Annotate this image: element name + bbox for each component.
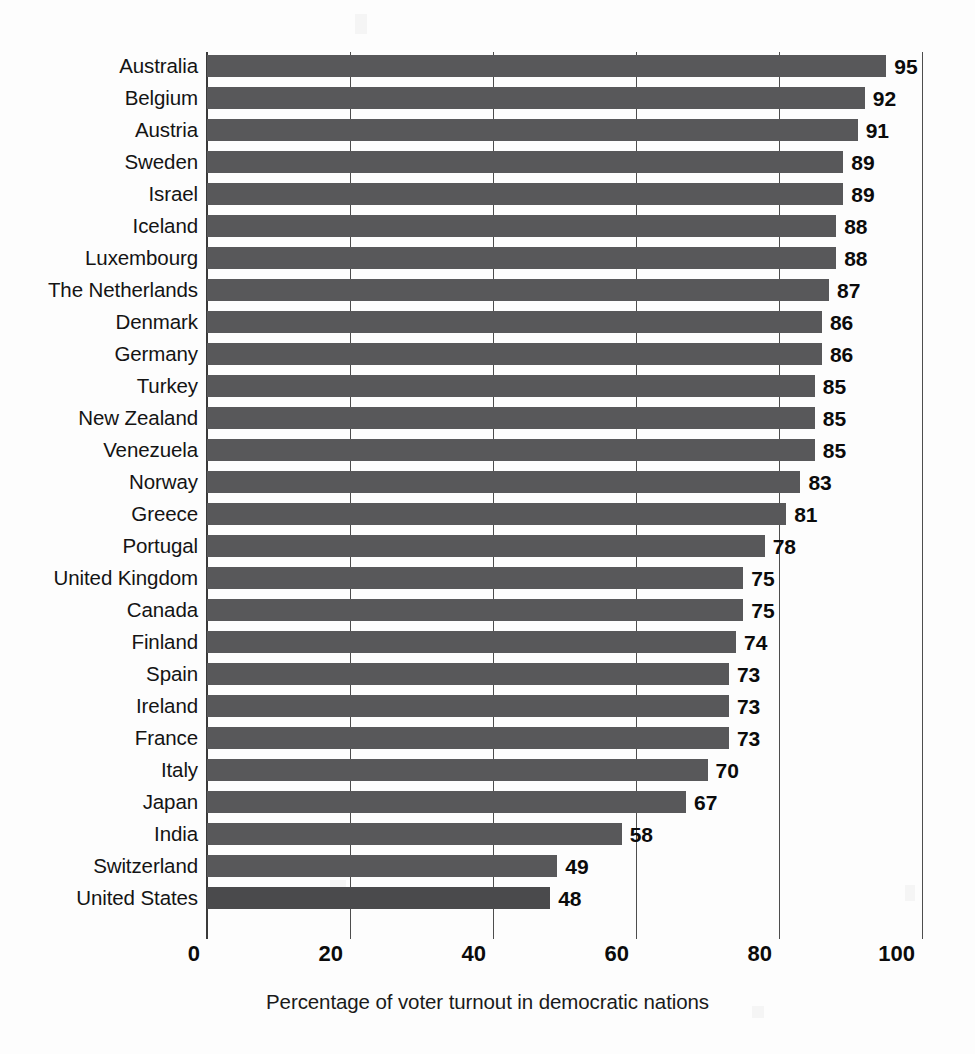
bar-value-sweden: 89 (851, 151, 874, 173)
category-label-germany: Germany (114, 343, 198, 365)
bar-sweden (207, 151, 843, 173)
x-tick-label-20: 20 (319, 941, 350, 967)
bar-row: India58 (0, 823, 975, 855)
x-axis-caption: Percentage of voter turnout in democrati… (0, 990, 975, 1014)
bar-switzerland (207, 855, 557, 877)
bar-row: France73 (0, 727, 975, 759)
bar-value-spain: 73 (737, 663, 760, 685)
bar-row: Spain73 (0, 663, 975, 695)
bar-row: Turkey85 (0, 375, 975, 407)
bar-norway (207, 471, 800, 493)
category-label-iceland: Iceland (133, 215, 198, 237)
category-label-turkey: Turkey (137, 375, 198, 397)
bar-japan (207, 791, 686, 813)
category-label-new-zealand: New Zealand (78, 407, 198, 429)
bar-value-japan: 67 (694, 791, 717, 813)
bar-row: Venezuela85 (0, 439, 975, 471)
bar-value-norway: 83 (808, 471, 831, 493)
category-label-the-netherlands: The Netherlands (48, 279, 198, 301)
category-label-denmark: Denmark (116, 311, 198, 333)
category-label-united-kingdom: United Kingdom (54, 567, 198, 589)
bar-value-the-netherlands: 87 (837, 279, 860, 301)
bar-united-kingdom (207, 567, 743, 589)
bar-portugal (207, 535, 765, 557)
bar-new-zealand (207, 407, 815, 429)
category-label-luxembourg: Luxembourg (85, 247, 198, 269)
bar-turkey (207, 375, 815, 397)
bar-value-canada: 75 (751, 599, 774, 621)
x-tick-label-100: 100 (878, 941, 922, 967)
category-label-greece: Greece (131, 503, 198, 525)
category-label-norway: Norway (129, 471, 198, 493)
x-tick-label-0: 0 (188, 941, 207, 967)
bar-row: Japan67 (0, 791, 975, 823)
scan-artifact (355, 14, 367, 34)
category-label-switzerland: Switzerland (93, 855, 198, 877)
bar-value-iceland: 88 (844, 215, 867, 237)
bar-row: Australia95 (0, 55, 975, 87)
bar-france (207, 727, 729, 749)
bar-value-israel: 89 (851, 183, 874, 205)
category-label-venezuela: Venezuela (103, 439, 198, 461)
bar-germany (207, 343, 822, 365)
category-label-canada: Canada (127, 599, 198, 621)
x-tick-label-80: 80 (748, 941, 779, 967)
bar-value-australia: 95 (894, 55, 917, 77)
bar-rows: Australia95Belgium92Austria91Sweden89Isr… (0, 55, 975, 919)
bar-iceland (207, 215, 836, 237)
bar-row: Israel89 (0, 183, 975, 215)
category-label-finland: Finland (131, 631, 198, 653)
bar-the-netherlands (207, 279, 829, 301)
bar-row: Italy70 (0, 759, 975, 791)
bar-value-new-zealand: 85 (823, 407, 846, 429)
bar-row: Ireland73 (0, 695, 975, 727)
bar-israel (207, 183, 843, 205)
category-label-india: India (154, 823, 198, 845)
category-label-australia: Australia (119, 55, 198, 77)
category-label-ireland: Ireland (136, 695, 198, 717)
bar-india (207, 823, 622, 845)
bar-row: Norway83 (0, 471, 975, 503)
bar-row: Denmark86 (0, 311, 975, 343)
bar-australia (207, 55, 886, 77)
bar-row: New Zealand85 (0, 407, 975, 439)
bar-row: Iceland88 (0, 215, 975, 247)
category-label-austria: Austria (135, 119, 198, 141)
bar-value-germany: 86 (830, 343, 853, 365)
bar-row: Canada75 (0, 599, 975, 631)
bar-austria (207, 119, 858, 141)
category-label-japan: Japan (143, 791, 198, 813)
bar-spain (207, 663, 729, 685)
bar-value-austria: 91 (866, 119, 889, 141)
bar-row: Portugal78 (0, 535, 975, 567)
bar-united-states (207, 887, 550, 909)
bar-value-luxembourg: 88 (844, 247, 867, 269)
bar-value-portugal: 78 (773, 535, 796, 557)
bar-denmark (207, 311, 822, 333)
bar-value-switzerland: 49 (565, 855, 588, 877)
bar-value-finland: 74 (744, 631, 767, 653)
category-label-spain: Spain (146, 663, 198, 685)
bar-row: Sweden89 (0, 151, 975, 183)
bar-luxembourg (207, 247, 836, 269)
bar-value-united-states: 48 (558, 887, 581, 909)
bar-value-united-kingdom: 75 (751, 567, 774, 589)
category-label-italy: Italy (161, 759, 198, 781)
bar-belgium (207, 87, 865, 109)
bar-canada (207, 599, 743, 621)
category-label-portugal: Portugal (122, 535, 198, 557)
bar-value-ireland: 73 (737, 695, 760, 717)
bar-row: Greece81 (0, 503, 975, 535)
category-label-sweden: Sweden (125, 151, 198, 173)
category-label-france: France (135, 727, 198, 749)
bar-value-france: 73 (737, 727, 760, 749)
bar-value-india: 58 (630, 823, 653, 845)
bar-row: Switzerland49 (0, 855, 975, 887)
bar-value-belgium: 92 (873, 87, 896, 109)
bar-row: Germany86 (0, 343, 975, 375)
x-tick-label-60: 60 (605, 941, 636, 967)
bar-row: Belgium92 (0, 87, 975, 119)
voter-turnout-bar-chart: 020406080100 Australia95Belgium92Austria… (0, 0, 975, 1054)
bar-row: Luxembourg88 (0, 247, 975, 279)
bar-value-greece: 81 (794, 503, 817, 525)
